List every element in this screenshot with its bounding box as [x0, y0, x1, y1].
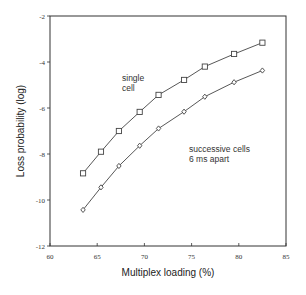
series-line: [83, 71, 262, 210]
square-marker: [181, 77, 186, 82]
square-marker: [231, 51, 236, 56]
x-tick-label: 85: [283, 253, 291, 261]
x-tick-label: 70: [141, 253, 149, 261]
square-marker: [98, 149, 103, 154]
plot-frame: [50, 16, 286, 246]
chart: -2-4-6-8-10-12 606570758085 singlecell s…: [0, 0, 306, 295]
diamond-marker: [260, 68, 264, 73]
y-axis-title: Loss probability (log): [15, 85, 26, 177]
series-successive-cells: [81, 68, 265, 213]
x-tick-label: 60: [47, 253, 55, 261]
x-tick-label: 75: [188, 253, 196, 261]
x-axis-title: Multiplex loading (%): [122, 267, 215, 278]
square-marker: [116, 128, 121, 133]
x-tick-label: 80: [235, 253, 243, 261]
series-single-cell: [80, 40, 265, 176]
square-marker: [137, 109, 142, 114]
annotation-successive-cells: successive cells6 ms apart: [189, 144, 250, 164]
y-tick-label: -4: [39, 59, 45, 67]
plot-border: [50, 16, 286, 246]
diamond-marker: [203, 94, 207, 99]
square-marker: [80, 171, 85, 176]
y-tick-label: -10: [36, 197, 46, 205]
x-tick-label: 65: [94, 253, 102, 261]
annotation-single-cell: singlecell: [122, 73, 144, 93]
data-series: [80, 40, 265, 212]
y-tick-label: -8: [39, 151, 45, 159]
y-tick-label: -6: [39, 105, 45, 113]
diamond-marker: [232, 80, 236, 85]
y-tick-label: -2: [39, 13, 45, 21]
y-axis-ticks: -2-4-6-8-10-12: [36, 13, 50, 251]
square-marker: [202, 64, 207, 69]
diamond-marker: [182, 109, 186, 114]
y-tick-label: -12: [36, 243, 46, 251]
square-marker: [156, 92, 161, 97]
square-marker: [260, 40, 265, 45]
